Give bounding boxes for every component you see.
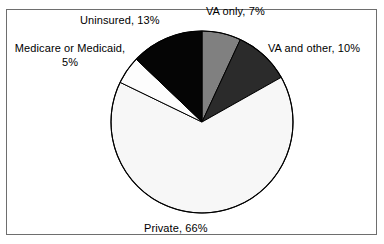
pie-chart-figure: VA only, 7% VA and other, 10% Uninsured,… [0,0,384,244]
slice-label-uninsured: Uninsured, 13% [80,14,160,27]
slice-label-medicare-line2: 5% [6,55,134,69]
slice-label-va-only: VA only, 7% [206,5,265,18]
slice-label-medicare-line1: Medicare or Medicaid, [6,41,134,55]
slice-label-private: Private, 66% [144,222,208,235]
slice-label-medicare-or-medicaid: Medicare or Medicaid, 5% [6,41,134,69]
pie-chart-canvas [0,0,384,244]
slice-label-va-and-other: VA and other, 10% [268,42,360,55]
